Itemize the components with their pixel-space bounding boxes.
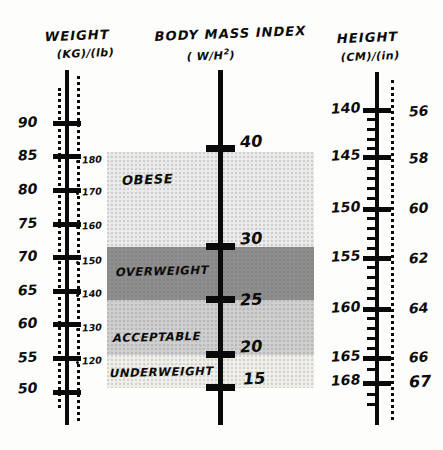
height-cm-label-155: 155 bbox=[330, 247, 361, 265]
height-tick-145 bbox=[363, 155, 391, 160]
bmi-label-20: 20 bbox=[239, 336, 264, 356]
height-in-label-60: 60 bbox=[408, 200, 430, 217]
weight-kg-label-75: 75 bbox=[17, 215, 39, 232]
height-minor-tick bbox=[367, 227, 379, 230]
height-axis-subtitle: (CM)/(in) bbox=[340, 49, 401, 64]
height-minor-tick bbox=[367, 118, 379, 121]
weight-lb-label-160: 160 bbox=[81, 219, 102, 231]
bmi-band-obese bbox=[107, 152, 314, 247]
height-minor-tick bbox=[367, 276, 379, 279]
height-minor-tick bbox=[367, 237, 379, 240]
bmi-axis-subtitle: ( W/H2) bbox=[186, 47, 236, 63]
height-minor-tick bbox=[367, 187, 379, 190]
weight-lb-dot-170 bbox=[76, 192, 79, 195]
weight-lb-label-180: 180 bbox=[81, 153, 102, 165]
weight-kg-label-70: 70 bbox=[17, 248, 39, 265]
bmi-label-15: 15 bbox=[242, 368, 267, 388]
weight-lb-dot-150 bbox=[76, 261, 79, 264]
height-tick-160 bbox=[363, 307, 391, 312]
weight-kg-label-65: 65 bbox=[17, 282, 39, 299]
height-minor-tick bbox=[367, 403, 379, 406]
weight-kg-label-55: 55 bbox=[17, 349, 39, 366]
height-axis-inches-dotted-line bbox=[391, 80, 394, 420]
height-minor-tick bbox=[367, 287, 379, 290]
height-minor-tick bbox=[367, 197, 379, 200]
bmi-label-30: 30 bbox=[239, 228, 264, 248]
weight-tick-70 bbox=[53, 255, 81, 260]
weight-kg-label-60: 60 bbox=[17, 315, 39, 332]
height-in-label-56: 56 bbox=[408, 103, 430, 120]
height-minor-tick bbox=[367, 147, 379, 150]
height-minor-tick bbox=[367, 128, 379, 131]
weight-lb-dot-180 bbox=[76, 160, 79, 163]
height-in-label-66: 66 bbox=[408, 349, 430, 366]
bmi-tick-30 bbox=[206, 243, 235, 250]
height-minor-tick bbox=[367, 337, 379, 340]
bmi-label-25: 25 bbox=[239, 289, 264, 309]
height-cm-label-140: 140 bbox=[330, 99, 361, 117]
weight-tick-60 bbox=[53, 322, 81, 327]
height-minor-tick bbox=[367, 297, 379, 300]
height-tick-168 bbox=[363, 381, 391, 386]
weight-axis-title: WEIGHT bbox=[44, 27, 111, 44]
height-cm-label-150: 150 bbox=[330, 198, 361, 216]
height-tick-150 bbox=[363, 207, 391, 212]
weight-kg-label-80: 80 bbox=[17, 181, 39, 198]
band-label-obese: OBESE bbox=[121, 171, 175, 188]
height-minor-tick bbox=[367, 368, 379, 371]
weight-lb-dot-130 bbox=[76, 328, 79, 331]
bmi-axis-title: BODY MASS INDEX bbox=[153, 23, 307, 44]
height-in-label-67: 67 bbox=[408, 371, 433, 391]
height-minor-tick bbox=[367, 266, 379, 269]
height-minor-tick bbox=[367, 138, 379, 141]
weight-lb-label-140: 140 bbox=[81, 287, 102, 299]
height-cm-label-168: 168 bbox=[330, 371, 361, 389]
weight-lb-label-120: 120 bbox=[81, 354, 102, 366]
height-minor-tick bbox=[367, 393, 379, 396]
height-tick-140 bbox=[363, 108, 391, 113]
height-minor-tick bbox=[367, 177, 379, 180]
weight-lb-dot-120 bbox=[76, 361, 79, 364]
height-in-label-58: 58 bbox=[408, 150, 430, 167]
weight-tick-85 bbox=[53, 154, 81, 159]
height-minor-tick bbox=[367, 317, 379, 320]
band-texture bbox=[107, 152, 314, 247]
bmi-tick-20 bbox=[206, 351, 235, 358]
bmi-label-40: 40 bbox=[239, 131, 264, 151]
weight-lb-dot-140 bbox=[76, 294, 79, 297]
bmi-tick-25 bbox=[206, 296, 235, 303]
bmi-subtitle-base: ( W/H bbox=[186, 49, 224, 63]
bmi-band-acceptable bbox=[107, 300, 314, 355]
weight-axis-lb-dotted-line bbox=[77, 76, 80, 421]
height-axis-title: HEIGHT bbox=[336, 29, 400, 46]
weight-kg-label-50: 50 bbox=[17, 380, 39, 397]
weight-axis-subtitle: (KG)/(lb) bbox=[56, 46, 115, 61]
height-minor-tick bbox=[367, 347, 379, 350]
height-minor-tick bbox=[367, 327, 379, 330]
band-label-acceptable: ACCEPTABLE bbox=[111, 329, 202, 345]
weight-tick-90 bbox=[53, 121, 81, 126]
weight-tick-50 bbox=[53, 390, 81, 395]
height-in-label-64: 64 bbox=[408, 300, 430, 317]
weight-kg-label-90: 90 bbox=[17, 114, 39, 131]
height-cm-label-160: 160 bbox=[330, 298, 361, 316]
height-minor-tick bbox=[367, 167, 379, 170]
bmi-tick-40 bbox=[206, 145, 235, 152]
weight-lb-dot-160 bbox=[76, 226, 79, 229]
weight-lb-label-170: 170 bbox=[81, 185, 102, 197]
bmi-tick-15 bbox=[206, 384, 235, 391]
bmi-subtitle-close: ) bbox=[228, 49, 236, 62]
band-label-underweight: UNDERWEIGHT bbox=[108, 364, 215, 381]
weight-lb-label-130: 130 bbox=[81, 321, 102, 333]
weight-kg-label-85: 85 bbox=[17, 147, 39, 164]
height-minor-tick bbox=[367, 217, 379, 220]
height-tick-155 bbox=[363, 256, 391, 261]
height-cm-label-165: 165 bbox=[330, 347, 361, 365]
bmi-nomogram-figure: OBESE OVERWEIGHT ACCEPTABLE UNDERWEIGHT … bbox=[0, 0, 443, 450]
band-texture bbox=[107, 300, 314, 355]
height-minor-tick bbox=[367, 247, 379, 250]
band-label-overweight: OVERWEIGHT bbox=[114, 263, 210, 279]
height-tick-165 bbox=[363, 356, 391, 361]
height-cm-label-145: 145 bbox=[330, 146, 361, 164]
height-in-label-62: 62 bbox=[408, 250, 430, 267]
